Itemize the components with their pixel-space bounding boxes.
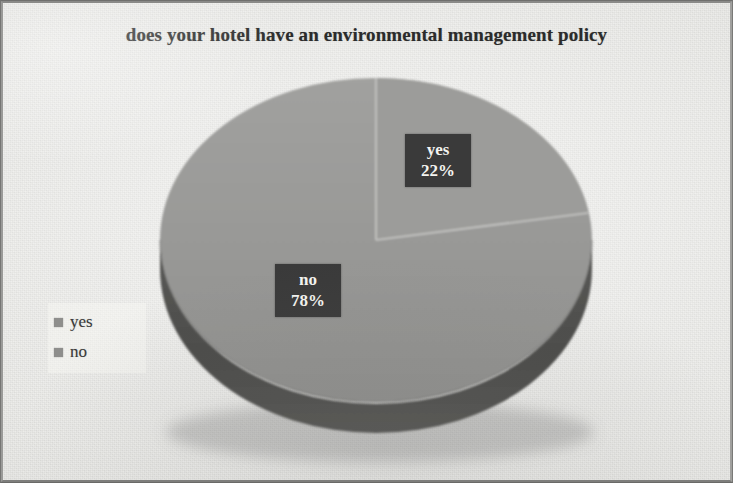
chart-legend: yes no [48,303,146,373]
legend-item-no[interactable]: no [54,337,140,367]
chart-page: does your hotel have an environmental ma… [0,0,733,483]
legend-item-yes[interactable]: yes [54,307,140,337]
data-label-no: no 78% [275,264,341,317]
pie-chart [0,0,733,483]
data-label-no-name: no [283,269,333,290]
data-label-yes: yes 22% [405,134,471,187]
data-label-yes-name: yes [413,139,463,160]
legend-label-yes: yes [70,312,93,332]
square-marker-icon [54,348,63,357]
legend-label-no: no [70,342,87,362]
square-marker-icon [54,318,63,327]
data-label-no-percent: 78% [283,290,333,311]
data-label-yes-percent: 22% [413,160,463,181]
pie-chart-svg [0,0,733,483]
